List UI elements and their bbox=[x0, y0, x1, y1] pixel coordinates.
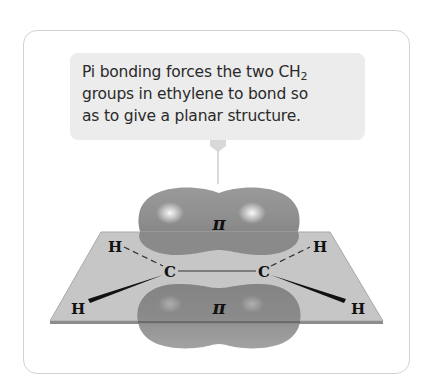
atom-h-upper-left: H bbox=[108, 238, 122, 256]
atom-h-lower-right: H bbox=[351, 300, 365, 318]
atom-carbon-left: C bbox=[164, 263, 176, 281]
pi-label-top: π bbox=[211, 213, 226, 234]
pi-label-bottom: π bbox=[211, 297, 226, 318]
ethylene-diagram: C C H H H H π π bbox=[0, 0, 441, 387]
callout-pointer bbox=[210, 140, 226, 184]
atom-h-lower-left: H bbox=[71, 300, 85, 318]
atom-h-upper-right: H bbox=[313, 238, 327, 256]
atom-carbon-right: C bbox=[258, 263, 270, 281]
